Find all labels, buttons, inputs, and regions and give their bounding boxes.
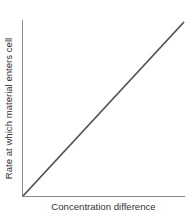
x-axis-label: Concentration difference (22, 201, 185, 212)
data-line (23, 22, 184, 196)
chart-canvas (0, 0, 195, 220)
y-axis-label-container: Rate at which material enters cell (2, 20, 16, 196)
y-axis-label: Rate at which material enters cell (4, 37, 15, 178)
